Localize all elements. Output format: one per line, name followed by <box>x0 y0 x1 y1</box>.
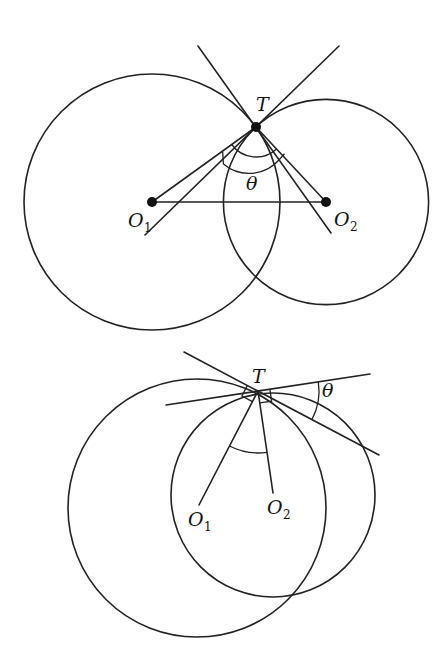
bottom-radius-T-O1 <box>199 391 258 505</box>
top-label-T: T <box>256 93 270 115</box>
top-label-O1: O <box>128 209 144 231</box>
top-point-O1 <box>147 197 157 207</box>
bottom-radius-T-O2 <box>258 391 273 493</box>
figure-canvas: T θ O 1 O 2 T θ O 1 O 2 <box>0 0 448 652</box>
bottom-label-theta: θ <box>322 379 334 401</box>
top-diagram: T θ O 1 O 2 <box>24 46 429 330</box>
bottom-label-O2: O <box>267 496 283 518</box>
top-radius-T-O2 <box>256 127 326 202</box>
top-label-O1-subscript: 1 <box>144 221 152 235</box>
bottom-circle-2 <box>171 393 375 597</box>
top-point-O2 <box>321 197 331 207</box>
bottom-tangent-line-circle-1 <box>184 352 379 455</box>
bottom-label-O1: O <box>188 508 204 530</box>
top-label-theta: θ <box>246 172 258 194</box>
top-point-T <box>251 122 261 132</box>
bottom-angle-arc-radii <box>230 446 268 453</box>
top-label-O2-subscript: 2 <box>350 220 358 234</box>
bottom-label-O1-subscript: 1 <box>204 520 212 534</box>
top-label-O2: O <box>334 208 350 230</box>
top-radius-T-O1 <box>152 127 256 202</box>
bottom-diagram: T θ O 1 O 2 <box>68 352 379 637</box>
bottom-label-T: T <box>252 365 266 387</box>
top-tangent-line-circle-2 <box>145 46 339 235</box>
bottom-label-O2-subscript: 2 <box>283 508 291 522</box>
